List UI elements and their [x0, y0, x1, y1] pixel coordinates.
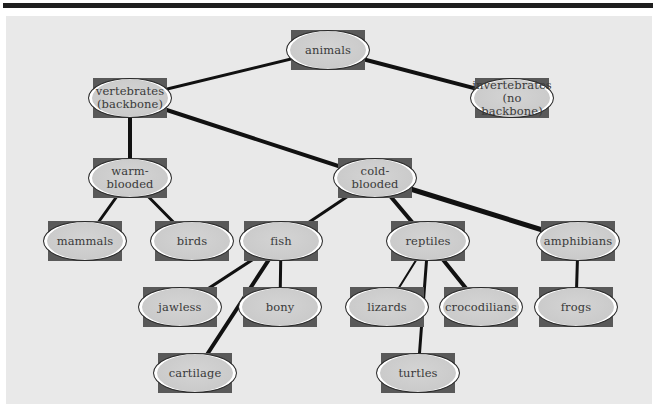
node-ellipse: invertebrates (no backbone): [470, 78, 554, 118]
node-ellipse: jawless: [138, 287, 222, 327]
node-lizards: lizards: [345, 285, 429, 329]
node-invertebrates: invertebrates (no backbone): [470, 76, 554, 120]
node-label: turtles: [398, 367, 437, 380]
node-label: frogs: [561, 301, 591, 314]
node-label: lizards: [367, 301, 407, 314]
node-ellipse: crocodilians: [439, 287, 523, 327]
node-label: bony: [266, 301, 295, 314]
node-ellipse: lizards: [345, 287, 429, 327]
node-mammals: mammals: [43, 219, 127, 263]
node-label: jawless: [158, 301, 201, 314]
node-label: reptiles: [405, 235, 450, 248]
node-label: birds: [177, 235, 207, 248]
node-ellipse: turtles: [376, 353, 460, 393]
node-label: crocodilians: [445, 301, 517, 314]
node-ellipse: warm- blooded: [88, 158, 172, 198]
node-fish: fish: [239, 219, 323, 263]
node-animals: animals: [286, 28, 370, 72]
node-label: warm- blooded: [106, 165, 153, 191]
node-reptiles: reptiles: [386, 219, 470, 263]
node-jawless: jawless: [138, 285, 222, 329]
node-cartilage: cartilage: [153, 351, 237, 395]
node-ellipse: cold- blooded: [333, 158, 417, 198]
node-turtles: turtles: [376, 351, 460, 395]
node-vertebrates: vertebrates (backbone): [88, 76, 172, 120]
node-warm-blooded: warm- blooded: [88, 156, 172, 200]
node-ellipse: vertebrates (backbone): [88, 78, 172, 118]
node-birds: birds: [150, 219, 234, 263]
node-label: invertebrates (no backbone): [471, 79, 553, 118]
node-label: cold- blooded: [351, 165, 398, 191]
node-ellipse: birds: [150, 221, 234, 261]
node-bony: bony: [238, 285, 322, 329]
node-ellipse: mammals: [43, 221, 127, 261]
node-ellipse: amphibians: [536, 221, 620, 261]
node-crocodilians: crocodilians: [439, 285, 523, 329]
node-label: vertebrates (backbone): [96, 85, 164, 111]
node-frogs: frogs: [534, 285, 618, 329]
node-label: amphibians: [544, 235, 612, 248]
node-label: animals: [305, 44, 351, 57]
node-ellipse: reptiles: [386, 221, 470, 261]
node-ellipse: bony: [238, 287, 322, 327]
node-ellipse: fish: [239, 221, 323, 261]
node-cold-blooded: cold- blooded: [333, 156, 417, 200]
node-label: cartilage: [169, 367, 222, 380]
node-label: fish: [270, 235, 292, 248]
node-ellipse: animals: [286, 30, 370, 70]
node-ellipse: frogs: [534, 287, 618, 327]
node-label: mammals: [57, 235, 114, 248]
node-amphibians: amphibians: [536, 219, 620, 263]
node-ellipse: cartilage: [153, 353, 237, 393]
